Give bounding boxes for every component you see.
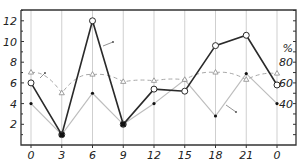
x-tick-label: 15 — [178, 149, 192, 162]
annotation-leader — [103, 42, 113, 46]
data-point — [274, 71, 279, 76]
y2-tick-label: 60 — [279, 77, 293, 90]
data-point — [91, 92, 94, 95]
data-point — [90, 72, 95, 77]
annotation-dot — [112, 41, 114, 43]
x-tick-label: 18 — [209, 149, 223, 162]
annotation-dot — [44, 72, 46, 74]
data-point — [28, 80, 34, 86]
y-tick-label: 12 — [3, 15, 17, 28]
overlap-point — [121, 122, 126, 127]
line-chart: 0369121518210 24681012 406080% — [0, 0, 307, 163]
data-point — [152, 102, 155, 105]
data-point — [243, 32, 249, 38]
data-point — [151, 86, 157, 92]
x-axis-labels: 0369121518210 — [28, 149, 281, 162]
y-tick-label: 2 — [10, 118, 17, 131]
data-point — [213, 70, 218, 75]
y-axis-labels: 24681012 — [3, 15, 17, 132]
y-tick-label: 8 — [10, 56, 17, 69]
annotation-leader — [226, 105, 236, 112]
data-point — [29, 102, 32, 105]
y2-tick-label: 80 — [279, 56, 293, 69]
data-point — [245, 72, 248, 75]
y2-axis-labels: 406080% — [279, 42, 293, 110]
annotation-dot — [235, 111, 237, 113]
y-tick-label: 6 — [10, 77, 17, 90]
x-tick-label: 0 — [274, 149, 281, 162]
x-tick-label: 9 — [120, 149, 127, 162]
overlap-point — [59, 132, 64, 137]
y-tick-label: 10 — [3, 36, 17, 49]
data-point — [90, 18, 96, 24]
x-tick-label: 6 — [89, 149, 96, 162]
data-point — [182, 88, 188, 94]
data-point — [213, 43, 219, 49]
y2-axis-unit: % — [283, 42, 293, 55]
x-tick-label: 21 — [239, 149, 253, 162]
data-point — [214, 114, 217, 117]
y2-tick-label: 40 — [279, 98, 293, 111]
data-point — [28, 70, 33, 75]
x-tick-label: 12 — [147, 149, 161, 162]
x-tick-label: 0 — [28, 149, 35, 162]
x-tick-label: 3 — [58, 149, 65, 162]
y-tick-label: 4 — [10, 98, 17, 111]
data-point — [182, 77, 187, 82]
